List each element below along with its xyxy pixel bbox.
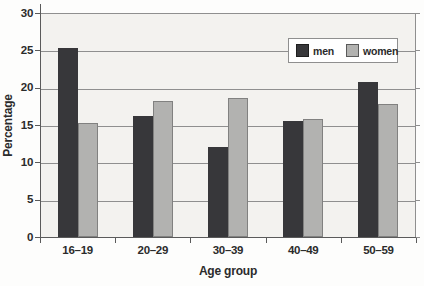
y-tick-label-25: 25: [9, 44, 33, 57]
bar-women-50–59: [378, 104, 398, 237]
y-tick-label-30: 30: [9, 7, 33, 20]
bar-women-30–39: [228, 98, 248, 237]
y-tick-25: [35, 50, 40, 51]
legend-label-women: women: [363, 45, 398, 57]
y-tick-label-15: 15: [9, 119, 33, 132]
x-tick-label-30–39: 30–39: [190, 244, 265, 257]
y-tick-10: [35, 162, 40, 163]
y-tick-30: [35, 13, 40, 14]
bar-women-40–49: [303, 119, 323, 237]
y-tick-20: [35, 88, 40, 89]
bar-chart: Percentage men women Age group 051015202…: [0, 0, 424, 286]
bar-men-20–29: [133, 116, 153, 237]
legend-swatch-men: [296, 44, 309, 57]
legend-label-men: men: [313, 45, 334, 57]
x-tick-2: [190, 238, 191, 243]
x-tick-label-50–59: 50–59: [341, 244, 416, 257]
bar-men-16–19: [58, 48, 78, 237]
x-tick-1: [115, 238, 116, 243]
x-tick-label-16–19: 16–19: [40, 244, 115, 257]
x-tick-3: [266, 238, 267, 243]
y-tick-right-20: [416, 88, 420, 89]
y-tick-label-20: 20: [9, 81, 33, 94]
y-tick-label-10: 10: [9, 156, 33, 169]
x-axis-line: [40, 237, 417, 238]
x-tick-5: [416, 238, 417, 243]
x-tick-label-40–49: 40–49: [266, 244, 341, 257]
y-tick-right-15: [416, 125, 420, 126]
bar-women-20–29: [153, 101, 173, 237]
bar-men-30–39: [208, 147, 228, 237]
y-tick-5: [35, 200, 40, 201]
bar-men-40–49: [283, 121, 303, 237]
bar-men-50–59: [358, 82, 378, 237]
bar-women-16–19: [78, 123, 98, 237]
x-tick-label-20–29: 20–29: [115, 244, 190, 257]
legend-swatch-women: [346, 44, 359, 57]
y-tick-right-25: [416, 50, 420, 51]
y-tick-right-5: [416, 200, 420, 201]
y-tick-label-0: 0: [9, 231, 33, 244]
x-axis-title: Age group: [40, 264, 416, 278]
y-tick-15: [35, 125, 40, 126]
y-tick-label-5: 5: [9, 193, 33, 206]
y-axis-line: [40, 4, 41, 238]
x-tick-0: [40, 238, 41, 243]
x-tick-4: [341, 238, 342, 243]
y-tick-right-10: [416, 162, 420, 163]
y-tick-right-30: [416, 13, 420, 14]
legend: men women: [288, 38, 398, 63]
